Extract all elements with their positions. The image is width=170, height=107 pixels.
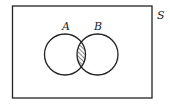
universe-label: S (157, 9, 165, 22)
venn-diagram: A B S (0, 0, 170, 107)
set-b-label: B (93, 20, 102, 33)
set-a-label: A (61, 20, 70, 33)
